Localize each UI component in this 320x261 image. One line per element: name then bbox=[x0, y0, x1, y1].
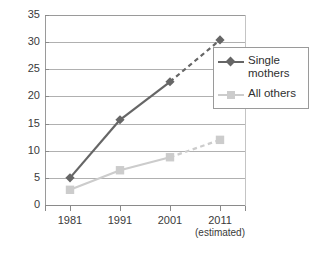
series-segment bbox=[120, 157, 170, 170]
data-point-square bbox=[216, 136, 224, 144]
legend-swatch-all-others bbox=[218, 88, 244, 102]
data-point-square bbox=[66, 186, 74, 194]
diamond-marker-icon bbox=[226, 57, 236, 67]
series-segment bbox=[120, 82, 170, 120]
line-chart: 05101520253035 1981199120012011(estimate… bbox=[0, 0, 320, 261]
legend-label-all-others: All others bbox=[248, 87, 296, 100]
series-all-others bbox=[66, 136, 224, 194]
legend-label-single-mothers: Single mothers bbox=[248, 54, 290, 80]
series-segment-dashed bbox=[170, 140, 220, 157]
series-segment bbox=[70, 120, 120, 178]
data-point-square bbox=[166, 153, 174, 161]
legend-item-single-mothers[interactable]: Single mothers bbox=[218, 54, 303, 80]
legend: Single mothers All others bbox=[213, 47, 309, 109]
square-marker-icon bbox=[227, 91, 235, 99]
series-layer bbox=[0, 0, 320, 261]
series-single-mothers bbox=[65, 35, 224, 182]
data-point-square bbox=[116, 166, 124, 174]
data-point-diamond bbox=[215, 35, 224, 44]
series-segment bbox=[70, 170, 120, 190]
legend-swatch-single-mothers bbox=[218, 55, 244, 69]
legend-item-all-others[interactable]: All others bbox=[218, 87, 303, 102]
